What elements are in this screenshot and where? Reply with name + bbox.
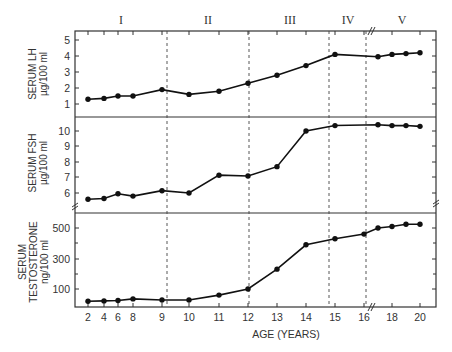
series-line — [88, 53, 420, 99]
data-point — [389, 224, 394, 229]
data-point — [245, 286, 250, 291]
data-point — [375, 54, 380, 59]
svg-text:20: 20 — [414, 311, 426, 323]
svg-text:500: 500 — [52, 222, 70, 234]
testosterone-y-axis: 500 300 100 SERUM TESTOSTERONE ng/100 ml — [17, 221, 436, 303]
svg-text:18: 18 — [386, 311, 398, 323]
stage-label-2: II — [204, 13, 212, 27]
lh-y-label: SERUM LH — [27, 48, 38, 100]
data-point — [85, 197, 90, 202]
data-point — [245, 81, 250, 86]
data-point — [403, 51, 408, 56]
svg-text:4: 4 — [64, 50, 70, 62]
svg-text:13: 13 — [271, 311, 283, 323]
data-point — [159, 87, 164, 92]
data-point — [417, 124, 422, 129]
stage-label-4: IV — [342, 13, 355, 27]
data-point — [159, 297, 164, 302]
testosterone-series — [85, 221, 422, 303]
svg-text:11: 11 — [214, 311, 225, 323]
lh-series — [85, 50, 422, 102]
svg-text:4: 4 — [101, 311, 107, 323]
data-point — [186, 190, 191, 195]
svg-text:3: 3 — [64, 66, 70, 78]
fsh-series — [85, 122, 422, 202]
data-point — [245, 173, 250, 178]
stage-label-3: III — [284, 13, 296, 27]
lh-y-unit: µg/100 ml — [38, 52, 49, 96]
svg-text:2: 2 — [64, 82, 70, 94]
stage-label-5: V — [398, 13, 407, 27]
panel-frames — [75, 31, 436, 307]
svg-text:8: 8 — [130, 311, 136, 323]
data-point — [332, 52, 337, 57]
data-point — [332, 236, 337, 241]
data-point — [216, 172, 221, 177]
data-point — [85, 97, 90, 102]
data-point — [130, 93, 135, 98]
svg-text:2: 2 — [85, 311, 91, 323]
data-point — [332, 123, 337, 128]
svg-text:7: 7 — [64, 171, 70, 183]
series-line — [88, 125, 420, 199]
data-point — [274, 164, 279, 169]
svg-text:1: 1 — [64, 98, 70, 110]
fsh-y-unit: µg/100 ml — [38, 141, 49, 185]
svg-text:100: 100 — [52, 283, 70, 295]
series-line — [88, 224, 420, 301]
data-point — [216, 292, 221, 297]
svg-text:5: 5 — [64, 34, 70, 46]
svg-text:10: 10 — [183, 311, 195, 323]
data-point — [186, 92, 191, 97]
data-point — [115, 93, 120, 98]
svg-text:14: 14 — [300, 311, 312, 323]
svg-text:300: 300 — [52, 253, 70, 265]
hormone-chart: I II III IV V — [0, 0, 452, 352]
fsh-y-label: SERUM FSH — [27, 134, 38, 193]
data-point — [303, 128, 308, 133]
data-point — [115, 191, 120, 196]
stage-label-1: I — [119, 13, 123, 27]
data-point — [274, 266, 279, 271]
svg-text:10: 10 — [58, 125, 70, 137]
data-point — [375, 225, 380, 230]
data-point — [130, 296, 135, 301]
svg-text:6: 6 — [115, 311, 121, 323]
stage-labels: I II III IV V — [119, 13, 407, 27]
data-point — [303, 242, 308, 247]
svg-text:8: 8 — [64, 156, 70, 168]
svg-text:9: 9 — [159, 311, 165, 323]
data-point — [274, 73, 279, 78]
data-point — [403, 123, 408, 128]
data-point — [130, 193, 135, 198]
x-axis-label: AGE (YEARS) — [252, 328, 320, 340]
data-point — [389, 52, 394, 57]
stage-dividers — [167, 31, 366, 307]
data-point — [403, 221, 408, 226]
data-point — [101, 196, 106, 201]
svg-text:12: 12 — [242, 311, 254, 323]
data-point — [101, 96, 106, 101]
data-point — [186, 297, 191, 302]
data-point — [417, 50, 422, 55]
svg-text:15: 15 — [329, 311, 341, 323]
data-point — [303, 63, 308, 68]
data-point — [361, 231, 366, 236]
t-y-label-2: TESTOSTERONE — [28, 221, 39, 303]
data-point — [85, 299, 90, 304]
svg-text:9: 9 — [64, 140, 70, 152]
data-point — [417, 221, 422, 226]
t-y-unit: ng/100 ml — [39, 240, 50, 284]
data-point — [216, 89, 221, 94]
svg-text:16: 16 — [358, 311, 370, 323]
x-tick-labels: 2 4 6 8 9 10 11 12 13 14 15 16 18 20 — [85, 311, 426, 323]
data-point — [159, 188, 164, 193]
t-y-label-1: SERUM — [17, 244, 28, 280]
data-point — [115, 298, 120, 303]
svg-text:6: 6 — [64, 187, 70, 199]
data-point — [101, 298, 106, 303]
data-point — [375, 122, 380, 127]
data-point — [389, 123, 394, 128]
